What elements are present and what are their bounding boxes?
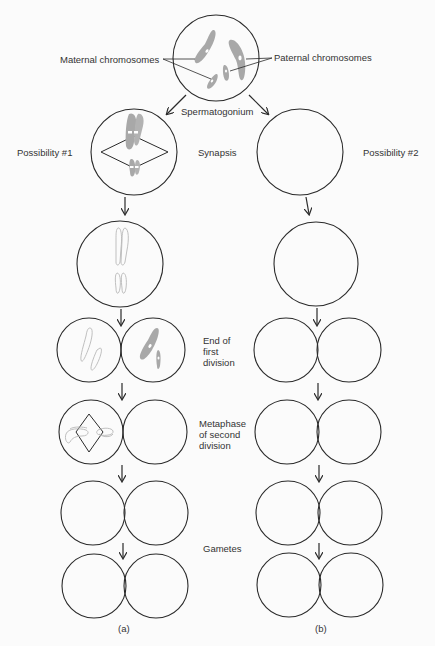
synapsis-cell-b (257, 109, 343, 195)
second-division-cells-b (256, 481, 382, 545)
label-line: division (199, 440, 259, 451)
end-of-first-division-label: End of first division (203, 335, 263, 368)
arrows-row4 (121, 308, 317, 325)
spermatogonium-cell (173, 15, 259, 101)
label-line: first (203, 346, 263, 357)
possibility-1-label: Possibility #1 (17, 147, 72, 158)
gametes-a (62, 554, 188, 618)
synapsis-cell-a (91, 109, 177, 195)
label-line: division (203, 357, 263, 368)
end-first-division-a (57, 318, 185, 382)
metaphase-second-division-b (255, 400, 381, 464)
metaphase-second-division-label: Metaphase of second division (199, 418, 259, 451)
arrows-row6 (122, 465, 319, 481)
second-division-cells-a (61, 481, 188, 545)
gametes-b (257, 553, 383, 617)
synapsis-label: Synapsis (198, 147, 237, 158)
arrows-row3 (125, 197, 309, 214)
gametes-label: Gametes (203, 543, 242, 554)
maternal-chromosomes-label: Maternal chromosomes (60, 54, 159, 65)
arrows-row5 (122, 383, 318, 399)
end-first-division-b (254, 318, 381, 382)
label-line: End of (203, 335, 263, 346)
panel-b-label: (b) (315, 623, 327, 634)
metaphase-second-division-a (59, 400, 187, 464)
metaphase-one-cell-a (77, 221, 163, 307)
panel-a-label: (a) (118, 623, 130, 634)
label-line: of second (199, 429, 259, 440)
paternal-chromosomes-label: Paternal chromosomes (274, 52, 372, 63)
spermatogonium-label: Spermatogonium (181, 106, 253, 117)
label-line: Metaphase (199, 418, 259, 429)
possibility-2-label: Possibility #2 (363, 147, 418, 158)
metaphase-one-cell-b (274, 222, 358, 306)
